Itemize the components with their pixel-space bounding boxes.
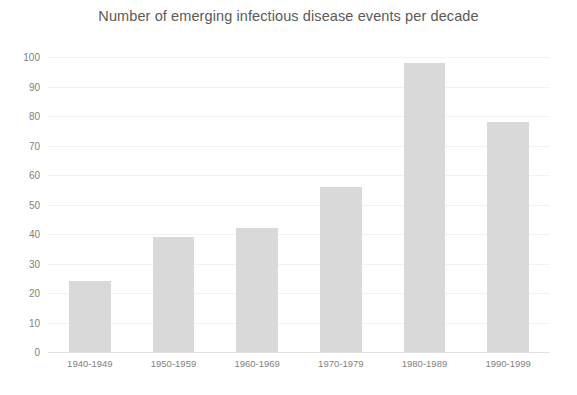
bar-slot [466, 57, 550, 352]
bar-series [48, 57, 550, 352]
x-axis-tick-label: 1980-1989 [383, 358, 467, 369]
y-axis-tick-label: 30 [6, 258, 40, 269]
chart-page: Number of emerging infectious disease ev… [0, 0, 577, 395]
y-axis-tick-label: 90 [6, 81, 40, 92]
bar-1970-1979[interactable] [320, 187, 362, 352]
y-axis-tick-label: 0 [6, 347, 40, 358]
x-axis-tick-label: 1970-1979 [299, 358, 383, 369]
bar-1940-1949[interactable] [69, 281, 111, 352]
y-axis-tick-label: 50 [6, 199, 40, 210]
y-axis-tick-label: 70 [6, 140, 40, 151]
y-axis-tick-label: 40 [6, 229, 40, 240]
y-axis-tick-label: 20 [6, 288, 40, 299]
y-axis-tick-label: 10 [6, 317, 40, 328]
gridline [48, 352, 550, 353]
x-axis-tick-label: 1940-1949 [48, 358, 132, 369]
y-axis-tick-label: 60 [6, 170, 40, 181]
bar-1980-1989[interactable] [404, 63, 446, 352]
bar-slot [48, 57, 132, 352]
bar-slot [215, 57, 299, 352]
bar-1950-1959[interactable] [153, 237, 195, 352]
bar-slot [132, 57, 216, 352]
y-axis: 0102030405060708090100 [0, 57, 40, 352]
y-axis-tick-label: 100 [6, 52, 40, 63]
bar-slot [299, 57, 383, 352]
bar-1990-1999[interactable] [487, 122, 529, 352]
bar-1960-1969[interactable] [236, 228, 278, 352]
y-axis-tick-label: 80 [6, 111, 40, 122]
x-axis: 1940-19491950-19591960-19691970-19791980… [48, 358, 550, 374]
x-axis-tick-label: 1950-1959 [132, 358, 216, 369]
bar-slot [383, 57, 467, 352]
plot-area [48, 57, 550, 352]
x-axis-tick-label: 1990-1999 [466, 358, 550, 369]
chart-title: Number of emerging infectious disease ev… [60, 6, 517, 27]
x-axis-tick-label: 1960-1969 [215, 358, 299, 369]
